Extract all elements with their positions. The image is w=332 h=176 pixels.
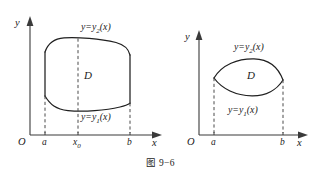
right-upper-curve-label-base: y=y [234,41,249,52]
left-lower-curve-label: y=y1(x) [81,112,111,125]
left-region-label-D: D [84,70,92,81]
figure-canvas [0,0,332,176]
left-lower-curve-label-base: y=y [81,111,96,122]
right-tick-label-a: a [211,138,216,148]
left-y-axis-label: y [15,18,20,29]
left-lower-curve-label-tail: (x) [100,111,111,122]
right-lower-curve-label-tail: (x) [247,104,258,115]
right-tick-label-b: b [280,138,285,148]
right-lower-curve-label-base: y=y [228,104,243,115]
left-x-axis-label: x [152,138,157,149]
left-upper-curve-label-base: y=y [81,21,96,32]
left-tick-label-b: b [127,138,132,148]
left-lower-curve-y1 [45,96,130,111]
left-upper-curve-y2 [45,38,130,55]
left-tick-label-x0: x0 [73,138,81,150]
right-y-axis-label: y [185,32,190,43]
left-tick-label-x0-sub: 0 [77,142,81,150]
right-upper-curve-label-tail: (x) [253,41,264,52]
right-y-axis-arrow-icon [196,30,203,40]
right-upper-curve-label: y=y2(x) [234,42,264,55]
figure-9-6: y x O a x0 b D y=y2(x) y=y1(x) y x O a b… [0,0,332,176]
left-y-axis-arrow-icon [27,16,34,26]
left-tick-label-a: a [42,138,47,148]
right-origin-label: O [187,137,195,148]
left-origin-label: O [18,137,26,148]
right-lower-curve-label: y=y1(x) [228,105,258,118]
right-region-label-D: D [247,70,255,81]
left-upper-curve-label: y=y2(x) [81,22,111,35]
right-x-axis-label: x [297,138,302,149]
left-upper-curve-label-tail: (x) [100,21,111,32]
figure-caption: 图 9−6 [146,155,175,169]
